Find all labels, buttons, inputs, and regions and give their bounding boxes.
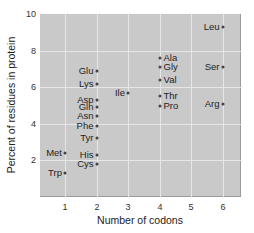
data-point-marker — [95, 115, 98, 118]
data-point-marker — [158, 56, 161, 59]
data-point-label: Leu — [204, 22, 220, 32]
data-point-marker — [95, 163, 98, 166]
gridline-horizontal — [40, 87, 241, 88]
x-tick-label: 3 — [121, 202, 135, 212]
y-axis-label: Percent of residues in protein — [5, 37, 17, 174]
y-tick-label: 8 — [22, 46, 36, 56]
scatter-chart: 246810 123456 MetTrpGluLysAspGlnAsnPheTy… — [0, 0, 254, 233]
x-tick-label: 4 — [153, 202, 167, 212]
data-point-label: Gly — [164, 62, 178, 72]
data-point-label: Cys — [77, 159, 93, 169]
data-point-marker — [221, 66, 224, 69]
data-point-label: Val — [164, 75, 177, 85]
gridline-horizontal — [40, 124, 241, 125]
data-point-marker — [95, 69, 98, 72]
data-point-marker — [95, 106, 98, 109]
x-tick-label: 6 — [216, 202, 230, 212]
x-tick-label: 5 — [184, 202, 198, 212]
gridline-horizontal — [40, 51, 241, 52]
data-point-marker — [95, 137, 98, 140]
y-tick-label: 10 — [22, 9, 36, 19]
data-point-marker — [95, 153, 98, 156]
data-point-label: Ser — [205, 62, 220, 72]
data-point-label: Tyr — [80, 133, 93, 143]
gridline-vertical — [191, 14, 192, 197]
data-point-marker — [64, 172, 67, 175]
data-point-marker — [95, 82, 98, 85]
x-axis-label: Number of codons — [97, 214, 183, 226]
gridline-vertical — [128, 14, 129, 197]
data-point-marker — [127, 91, 130, 94]
data-point-label: Lys — [79, 78, 93, 88]
x-tick-label: 2 — [90, 202, 104, 212]
data-point-marker — [158, 78, 161, 81]
data-point-marker — [221, 25, 224, 28]
data-point-marker — [158, 95, 161, 98]
data-point-marker — [158, 104, 161, 107]
data-point-marker — [158, 66, 161, 69]
x-tick-label: 1 — [58, 202, 72, 212]
data-point-marker — [64, 152, 67, 155]
data-point-label: Ile — [115, 87, 125, 97]
gridline-horizontal — [40, 160, 241, 161]
data-point-label: Phe — [77, 120, 94, 129]
data-point-label: Arg — [205, 98, 220, 108]
data-point-marker — [95, 99, 98, 102]
y-tick-label: 6 — [22, 82, 36, 92]
data-point-marker — [95, 124, 98, 127]
data-point-label: Trp — [48, 168, 62, 178]
data-point-label: Glu — [79, 65, 94, 75]
data-point-marker — [221, 102, 224, 105]
data-point-label: Met — [46, 148, 62, 158]
y-tick-label: 2 — [22, 155, 36, 165]
gridline-vertical — [65, 14, 66, 197]
data-point-label: Pro — [164, 100, 179, 110]
y-tick-label: 4 — [22, 119, 36, 129]
gridline-vertical — [223, 14, 224, 197]
